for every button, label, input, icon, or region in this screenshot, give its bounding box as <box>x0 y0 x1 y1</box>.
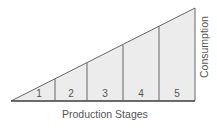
stage-label-4: 4 <box>131 88 151 99</box>
x-axis-label: Production Stages <box>62 108 148 120</box>
stage-label-3: 3 <box>95 88 115 99</box>
stage-label-5: 5 <box>167 88 187 99</box>
stage-label-2: 2 <box>61 88 81 99</box>
y-axis-label: Consumption <box>198 18 210 78</box>
stage-label-1: 1 <box>29 88 49 99</box>
